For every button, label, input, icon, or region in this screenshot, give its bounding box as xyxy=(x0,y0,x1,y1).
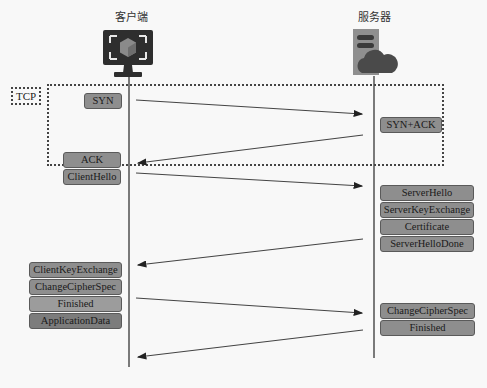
msg-finished-client: Finished xyxy=(29,296,122,312)
arrow-syn-ack xyxy=(138,135,363,163)
msg-server-hello: ServerHello xyxy=(380,185,474,201)
client-key-exchange-stack: ClientKeyExchange ChangeCipherSpec Finis… xyxy=(29,262,122,330)
msg-change-cipher-spec-server: ChangeCipherSpec xyxy=(380,303,475,319)
msg-syn: SYN xyxy=(84,93,122,109)
msg-ack: ACK xyxy=(63,152,121,168)
msg-application-data: ApplicationData xyxy=(29,313,122,329)
arrow-finished-server xyxy=(138,330,363,357)
msg-server-hello-done: ServerHelloDone xyxy=(380,236,474,252)
msg-client-key-exchange: ClientKeyExchange xyxy=(29,262,122,278)
msg-client-hello: ClientHello xyxy=(63,169,121,185)
msg-change-cipher-spec-client: ChangeCipherSpec xyxy=(29,279,122,295)
ack-clienthello-stack: ACK ClientHello xyxy=(63,152,121,186)
arrow-syn xyxy=(136,100,362,114)
arrow-finished-client xyxy=(136,298,362,313)
arrow-client-hello xyxy=(136,173,362,186)
server-change-cipher-stack: ChangeCipherSpec Finished xyxy=(380,303,475,337)
msg-syn-ack: SYN+ACK xyxy=(380,117,442,133)
server-hello-stack: ServerHello ServerKeyExchange Certificat… xyxy=(380,185,474,253)
msg-server-key-exchange: ServerKeyExchange xyxy=(380,202,474,218)
syn-box: SYN xyxy=(84,93,122,110)
msg-certificate: Certificate xyxy=(380,219,474,235)
arrow-server-hello-done xyxy=(138,239,363,265)
msg-finished-server: Finished xyxy=(380,320,475,336)
syn-ack-box: SYN+ACK xyxy=(380,117,442,134)
